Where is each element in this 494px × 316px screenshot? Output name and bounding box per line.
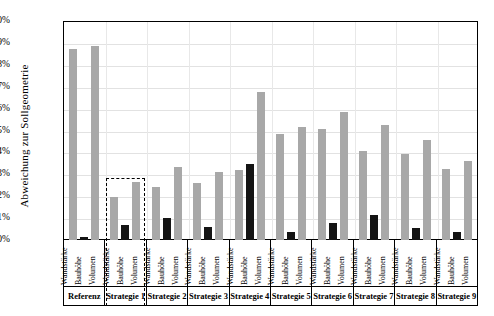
bar-bauhohe xyxy=(370,215,378,240)
bar-volumen xyxy=(381,125,389,240)
y-tick-label: 8% xyxy=(0,65,10,75)
y-tick-label: 9% xyxy=(0,43,10,53)
category-label: Strategie 6 xyxy=(312,287,353,305)
bar-group xyxy=(105,21,147,240)
bar-volumen xyxy=(423,140,431,240)
bar-wandstarke xyxy=(359,151,367,240)
bar-group xyxy=(188,21,230,240)
y-tick-label: 10% xyxy=(0,21,10,31)
y-tick-label: 3% xyxy=(0,174,10,184)
bar-group xyxy=(395,21,437,240)
bar-group xyxy=(146,21,188,240)
y-tick-label: 4% xyxy=(0,152,10,162)
bar-volumen xyxy=(91,46,99,240)
bar-volumen xyxy=(215,172,223,240)
bar-bauhohe xyxy=(287,232,295,240)
sub-category-group: WandstärkeBauhöheVolumen xyxy=(64,240,105,286)
bar-volumen xyxy=(174,167,182,240)
bar-group xyxy=(229,21,271,240)
sub-category-group: WandstärkeBauhöheVolumen xyxy=(312,240,353,286)
bar-bauhohe xyxy=(246,164,254,240)
bar-bauhohe xyxy=(412,228,420,240)
bar-volumen xyxy=(298,127,306,240)
bar-volumen xyxy=(257,92,265,240)
bar-wandstarke xyxy=(193,183,201,240)
bar-group xyxy=(271,21,313,240)
bar-wandstarke xyxy=(235,170,243,240)
sub-category-group: WandstärkeBauhöheVolumen xyxy=(230,240,271,286)
bar-wandstarke xyxy=(401,154,409,241)
y-axis-title: Abweichung zur Sollgeometrie xyxy=(18,41,34,231)
y-tick-label: 5% xyxy=(0,131,10,141)
category-label: Strategie 3 xyxy=(188,287,229,305)
bar-bauhohe xyxy=(121,225,129,240)
bar-groups xyxy=(63,21,478,240)
sub-category-label: Volumen xyxy=(465,240,476,286)
sub-category-group: WandstärkeBauhöheVolumen xyxy=(147,240,188,286)
bar-volumen xyxy=(464,161,472,240)
y-tick-label: 6% xyxy=(0,109,10,119)
bar-group xyxy=(312,21,354,240)
bar-bauhohe xyxy=(163,218,171,240)
y-tick-label: 1% xyxy=(0,218,10,228)
sub-category-group: WandstärkeBauhöheVolumen xyxy=(437,240,477,286)
category-label: Strategie 5 xyxy=(271,287,312,305)
bar-bauhohe xyxy=(453,232,461,240)
chart-container: Abweichung zur Sollgeometrie 0%1%2%3%4%5… xyxy=(0,0,494,316)
bar-group xyxy=(354,21,396,240)
category-label: Strategie 4 xyxy=(230,287,271,305)
sub-category-label-band: WandstärkeBauhöheVolumenWandstärkeBauhöh… xyxy=(63,240,478,286)
bar-wandstarke xyxy=(276,134,284,240)
category-label: Referenz xyxy=(64,287,105,305)
bar-wandstarke xyxy=(152,187,160,240)
bar-wandstarke xyxy=(69,49,77,240)
category-label: Strategie 8 xyxy=(395,287,436,305)
sub-category-group: WandstärkeBauhöheVolumen xyxy=(271,240,312,286)
bar-group xyxy=(437,21,479,240)
category-label-band: ReferenzStrategie 1Strategie 2Strategie … xyxy=(63,286,478,306)
category-label: Strategie 7 xyxy=(354,287,395,305)
y-tick-label: 0% xyxy=(0,240,10,250)
bar-wandstarke xyxy=(110,197,118,240)
sub-category-group: WandstärkeBauhöheVolumen xyxy=(395,240,436,286)
sub-category-group: WandstärkeBauhöheVolumen xyxy=(188,240,229,286)
category-label: Strategie 2 xyxy=(147,287,188,305)
bar-bauhohe xyxy=(204,227,212,240)
category-label: Strategie 1 xyxy=(105,287,146,305)
bar-group xyxy=(63,21,105,240)
bar-wandstarke xyxy=(442,169,450,240)
sub-category-group: WandstärkeBauhöheVolumen xyxy=(105,240,146,286)
bar-bauhohe xyxy=(329,223,337,240)
bar-volumen xyxy=(340,112,348,240)
y-tick-label: 7% xyxy=(0,87,10,97)
bar-volumen xyxy=(132,182,140,240)
category-label: Strategie 9 xyxy=(437,287,477,305)
y-tick-label: 2% xyxy=(0,196,10,206)
bar-wandstarke xyxy=(318,129,326,240)
